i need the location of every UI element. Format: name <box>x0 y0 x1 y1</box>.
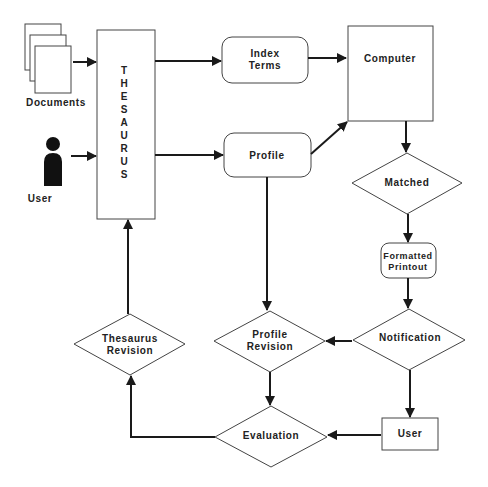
formatted-printout-label-2: Printout <box>388 262 427 272</box>
computer-label: Computer <box>364 53 416 64</box>
svg-text:S: S <box>121 104 128 115</box>
edge-evaluation-thesaurus-revision <box>131 376 215 437</box>
svg-text:E: E <box>121 91 128 102</box>
index-terms-label-2: Terms <box>249 60 281 71</box>
svg-text:R: R <box>120 143 128 154</box>
flow-diagram: Documents User T H E S A U R U S Index T… <box>0 0 488 487</box>
profile-revision-label-2: Revision <box>247 341 293 352</box>
thesaurus-revision-label-1: Thesaurus <box>102 333 158 344</box>
matched-label: Matched <box>385 177 430 188</box>
computer-box <box>348 26 433 121</box>
profile-revision-label-1: Profile <box>252 329 287 340</box>
evaluation-label: Evaluation <box>243 430 300 441</box>
formatted-printout-label-1: Formatted <box>383 251 432 261</box>
profile-label: Profile <box>249 150 284 161</box>
edge-profile-computer <box>311 122 347 154</box>
svg-text:U: U <box>120 156 127 167</box>
notification-label: Notification <box>379 332 441 343</box>
svg-text:T: T <box>121 65 127 76</box>
user-input-label: User <box>28 193 53 204</box>
thesaurus-label: T H E S A U R U S <box>120 65 128 180</box>
svg-text:S: S <box>121 169 128 180</box>
user-output-label: User <box>398 428 423 439</box>
index-terms-label-1: Index <box>250 48 279 59</box>
person-icon <box>44 137 62 186</box>
documents-label: Documents <box>26 97 86 108</box>
svg-text:H: H <box>120 78 127 89</box>
svg-text:U: U <box>120 130 127 141</box>
svg-text:A: A <box>120 117 127 128</box>
thesaurus-revision-label-2: Revision <box>107 345 153 356</box>
documents-stack-icon <box>25 24 71 93</box>
